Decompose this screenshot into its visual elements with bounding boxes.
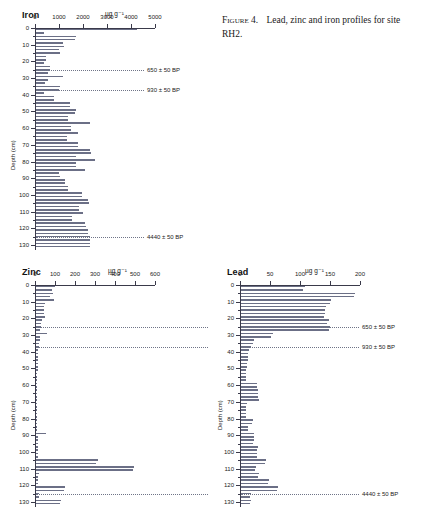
iron-y-tick-label: 90 <box>13 175 29 181</box>
profile-bar <box>36 186 68 188</box>
profile-bar <box>241 356 248 358</box>
profile-bar <box>241 303 330 305</box>
profile-bar <box>241 479 269 481</box>
profile-bar <box>36 449 38 451</box>
profile-bar <box>241 329 329 331</box>
profile-bar <box>36 336 40 338</box>
zinc-y-tick-minor <box>33 427 36 428</box>
lead-y-tick-label: 30 <box>218 332 234 338</box>
zinc-x-tick <box>55 281 56 285</box>
profile-bar <box>36 343 39 345</box>
radiocarbon-datum-line <box>241 347 359 348</box>
profile-bar <box>36 490 64 492</box>
iron-x-tick-label: 3000 <box>100 14 113 20</box>
profile-bar <box>36 142 78 144</box>
lead-y-tick-minor <box>238 377 241 378</box>
lead-y-tick-minor <box>238 494 241 495</box>
profile-bar <box>241 289 303 291</box>
radiocarbon-datum-line <box>36 70 144 71</box>
zinc-y-tick <box>31 318 35 319</box>
profile-bar <box>36 399 37 401</box>
zinc-y-tick-minor <box>33 460 36 461</box>
iron-y-tick <box>31 128 35 129</box>
iron-y-tick <box>31 45 35 46</box>
profile-bar <box>36 313 44 315</box>
profile-bar <box>36 86 60 88</box>
iron-y-tick-label: 130 <box>13 242 29 248</box>
zinc-y-tick-label: 0 <box>13 282 29 288</box>
lead-y-tick-label: 90 <box>218 432 234 438</box>
lead-x-tick-label: 200 <box>355 271 365 277</box>
profile-bar <box>36 29 137 31</box>
profile-bar <box>36 156 76 158</box>
profile-bar <box>36 419 37 421</box>
profile-bar <box>36 429 37 431</box>
figure-caption: Figure 4. Lead, zinc and iron profiles f… <box>222 14 412 42</box>
profile-bar <box>36 82 45 84</box>
zinc-x-tick <box>35 281 36 285</box>
lead-x-tick-label: 50 <box>267 271 274 277</box>
lead-x-tick <box>270 281 271 285</box>
profile-bar <box>241 366 247 368</box>
profile-bar <box>36 46 64 48</box>
lead-x-tick-label: 150 <box>325 271 335 277</box>
lead-y-tick <box>236 419 240 420</box>
profile-bar <box>36 349 38 351</box>
profile-bar <box>36 306 44 308</box>
zinc-y-tick-label: 40 <box>13 349 29 355</box>
lead-y-tick-minor <box>238 444 241 445</box>
profile-bar <box>36 426 37 428</box>
lead-y-tick-minor <box>238 310 241 311</box>
iron-x-tick-label: 5000 <box>148 14 161 20</box>
iron-x-tick <box>59 24 60 28</box>
profile-bar <box>36 456 38 458</box>
profile-bar <box>36 192 82 194</box>
iron-y-tick-label: 70 <box>13 142 29 148</box>
profile-bar <box>241 336 271 338</box>
profile-bar <box>241 363 247 365</box>
profile-bar <box>241 436 254 438</box>
zinc-y-tick-label: 20 <box>13 315 29 321</box>
lead-x-tick <box>360 281 361 285</box>
profile-bar <box>241 306 326 308</box>
lead-y-tick-label: 0 <box>218 282 234 288</box>
profile-bar <box>241 453 257 455</box>
profile-bar <box>36 369 38 371</box>
zinc-y-tick-minor <box>33 360 36 361</box>
profile-bar <box>241 389 258 391</box>
profile-bar <box>241 443 253 445</box>
profile-bar <box>36 202 89 204</box>
iron-y-tick-label: 100 <box>13 192 29 198</box>
profile-bar <box>36 152 91 154</box>
lead-x-tick-label: 0 <box>238 271 241 277</box>
iron-y-tick-label: 20 <box>13 58 29 64</box>
profile-bar <box>36 319 42 321</box>
lead-y-tick <box>236 318 240 319</box>
profile-bar <box>36 366 38 368</box>
profile-bar <box>36 453 38 455</box>
iron-x-tick-label: 1000 <box>52 14 65 20</box>
profile-bar <box>36 416 37 418</box>
zinc-x-tick <box>155 281 156 285</box>
iron-y-tick-label: 120 <box>13 225 29 231</box>
profile-bar <box>36 182 65 184</box>
profile-bar <box>36 149 90 151</box>
profile-bar <box>36 72 48 74</box>
profile-bar <box>36 49 59 51</box>
lead-y-tick-minor <box>238 293 241 294</box>
iron-y-tick <box>31 78 35 79</box>
zinc-y-tick <box>31 335 35 336</box>
profile-bar <box>36 146 78 148</box>
profile-bar <box>36 309 44 311</box>
profile-bar <box>241 353 248 355</box>
zinc-y-tick-minor <box>33 310 36 311</box>
zinc-panel-title: Zinc <box>22 267 41 277</box>
zinc-y-tick-minor <box>33 393 36 394</box>
zinc-y-tick-minor <box>33 377 36 378</box>
lead-y-tick-label: 80 <box>218 416 234 422</box>
lead-y-tick-label: 130 <box>218 499 234 505</box>
profile-bar <box>36 52 60 54</box>
profile-bar <box>36 379 37 381</box>
zinc-x-tick <box>135 281 136 285</box>
zinc-y-tick-label: 90 <box>13 432 29 438</box>
